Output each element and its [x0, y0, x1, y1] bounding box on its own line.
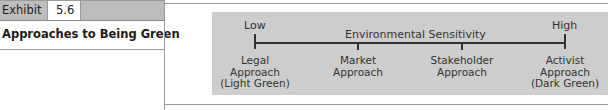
axis-title: Environmental Sensitivity: [345, 28, 486, 41]
axis-tick-activist: [564, 34, 566, 49]
category-market: Market Approach: [308, 55, 408, 78]
category-line: Legal: [205, 55, 305, 67]
category-line: Stakeholder: [412, 55, 512, 67]
sensitivity-axis: [255, 42, 566, 44]
category-line: Market: [308, 55, 408, 67]
column-divider: [164, 0, 165, 110]
axis-tick-stakeholder: [461, 43, 463, 50]
category-line: Activist: [515, 55, 608, 67]
category-activist: Activist Approach (Dark Green): [515, 55, 608, 90]
exhibit-number: 5.6: [47, 1, 81, 20]
category-line: Approach: [308, 67, 408, 79]
exhibit-header-band: Exhibit 5.6: [0, 0, 164, 21]
category-line: (Light Green): [205, 78, 305, 90]
category-legal: Legal Approach (Light Green): [205, 55, 305, 90]
high-label: High: [552, 19, 577, 32]
title-divider: [0, 49, 164, 50]
exhibit-title: Approaches to Being Green: [2, 27, 180, 41]
exhibit-label: Exhibit: [2, 3, 42, 17]
bottom-rule: [165, 104, 608, 105]
category-line: Approach: [412, 67, 512, 79]
axis-tick-legal: [254, 34, 256, 49]
category-stakeholder: Stakeholder Approach: [412, 55, 512, 78]
category-line: (Dark Green): [515, 78, 608, 90]
axis-tick-market: [357, 43, 359, 50]
low-label: Low: [244, 19, 266, 32]
top-rule: [165, 3, 608, 4]
